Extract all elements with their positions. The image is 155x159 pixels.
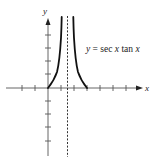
function-label: y = sec x tan x — [85, 44, 140, 54]
x-axis: x — [6, 83, 149, 93]
y-axis: y — [42, 6, 51, 156]
curve-right-branch — [73, 17, 87, 88]
x-axis-label: x — [144, 83, 149, 93]
y-axis-label: y — [42, 6, 47, 16]
x-axis-arrow-icon — [136, 86, 143, 91]
curve-left-branch — [48, 17, 62, 88]
y-axis-arrow-icon — [46, 18, 51, 25]
sec-tan-graph: x y y = sec x tan x — [0, 0, 155, 159]
